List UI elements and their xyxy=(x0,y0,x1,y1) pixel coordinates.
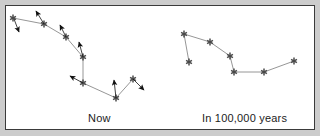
sky-canvas: Now In 100,000 years xyxy=(6,6,314,129)
right-panel-links xyxy=(184,34,294,72)
arrow-star-1 xyxy=(14,19,19,32)
star-marker xyxy=(207,39,213,46)
constellation-link xyxy=(210,42,230,56)
star-marker xyxy=(227,53,233,60)
arrow-star-7 xyxy=(133,79,144,90)
left-panel-motion-arrows xyxy=(14,11,144,98)
arrow-star-6 xyxy=(114,80,116,98)
panel-label-now: Now xyxy=(88,112,111,124)
constellation-link xyxy=(83,83,116,98)
constellation-link xyxy=(13,18,44,24)
figure-root: Now In 100,000 years xyxy=(0,0,320,136)
arrow-star-2 xyxy=(36,11,44,24)
constellation-link xyxy=(184,34,189,62)
constellation-svg xyxy=(6,6,314,129)
left-panel-stars xyxy=(10,15,136,102)
star-marker xyxy=(181,31,187,38)
star-marker xyxy=(291,58,297,65)
constellation-link xyxy=(184,34,210,42)
constellation-link xyxy=(264,61,294,72)
arrow-star-5 xyxy=(70,76,83,83)
right-panel-stars xyxy=(181,31,297,76)
star-marker xyxy=(186,59,192,66)
panel-label-future: In 100,000 years xyxy=(202,112,287,124)
constellation-link xyxy=(116,79,133,98)
